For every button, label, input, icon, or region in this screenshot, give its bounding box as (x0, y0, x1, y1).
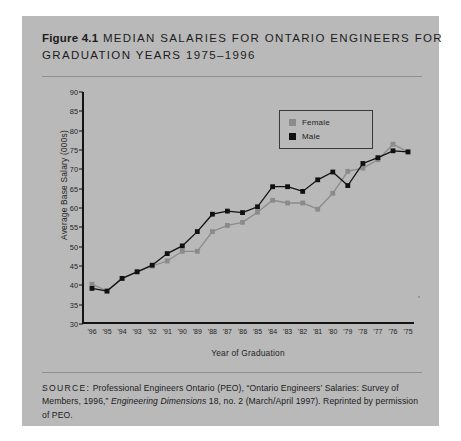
data-point-female (165, 259, 170, 264)
x-tick-label: '83 (283, 328, 292, 335)
legend-label-female: Female (302, 118, 330, 127)
y-tick-label: 85 (70, 107, 78, 116)
y-tick-label: 65 (70, 184, 78, 193)
x-tick-label: '78 (358, 328, 367, 335)
data-point-male (180, 244, 185, 249)
data-point-male (120, 276, 125, 281)
source-publication-title: Engineering Dimensions (111, 396, 206, 406)
data-point-female (300, 201, 305, 206)
source-label: SOURCE: (42, 383, 90, 393)
data-point-female (330, 191, 335, 196)
x-tick-label: '91 (163, 328, 172, 335)
legend-label-male: Male (302, 132, 320, 141)
x-axis-label: Year of Graduation (82, 348, 414, 358)
x-tick-label: '75 (403, 328, 412, 335)
y-tick-label: 75 (70, 146, 78, 155)
data-point-male (285, 184, 290, 189)
data-point-female (225, 223, 230, 228)
x-tick-label: '81 (313, 328, 322, 335)
x-tick-label: '89 (193, 328, 202, 335)
source-note: SOURCE: Professional Engineers Ontario (… (42, 382, 423, 422)
y-tick-label: 80 (70, 126, 78, 135)
data-point-female (195, 249, 200, 254)
figure-container: Figure 4.1 MEDIAN SALARIES FOR ONTARIO E… (22, 16, 439, 426)
x-tick-label: '93 (133, 328, 142, 335)
data-point-male (165, 251, 170, 256)
title-text-line-2: GRADUATION YEARS 1975–1996 (42, 47, 424, 64)
data-point-female (90, 282, 95, 287)
title-line-1: Figure 4.1 MEDIAN SALARIES FOR ONTARIO E… (42, 30, 424, 47)
x-tick-label: '80 (328, 328, 337, 335)
data-point-male (90, 286, 95, 291)
y-tick-label: 55 (70, 223, 78, 232)
legend-item-male: Male (289, 131, 320, 142)
chart-panel: Average Base Salary (000s) 3035404550556… (34, 84, 427, 364)
data-point-male (330, 170, 335, 175)
data-point-male (255, 204, 260, 209)
data-point-female (180, 249, 185, 254)
legend-item-female: Female (289, 117, 330, 128)
y-tick-label: 50 (70, 242, 78, 251)
x-tick-label: '79 (343, 328, 352, 335)
y-axis-label: Average Base Salary (000s) (59, 115, 69, 255)
data-point-male (210, 212, 215, 217)
print-speck (418, 296, 420, 298)
y-tick-label: 60 (70, 204, 78, 213)
data-point-male (240, 210, 245, 215)
data-point-female (315, 207, 320, 212)
data-point-female (255, 210, 260, 215)
y-tick-label: 30 (70, 320, 78, 329)
x-tick-label: '87 (223, 328, 232, 335)
data-point-male (406, 150, 411, 155)
title-divider (42, 76, 422, 77)
data-point-male (225, 209, 230, 214)
data-point-male (135, 269, 140, 274)
data-point-male (270, 184, 275, 189)
data-point-male (105, 289, 110, 294)
data-point-male (391, 148, 396, 153)
data-point-female (285, 201, 290, 206)
data-point-female (210, 229, 215, 234)
data-point-male (195, 229, 200, 234)
x-tick-label: '77 (373, 328, 382, 335)
x-tick-label: '84 (268, 328, 277, 335)
x-tick-label: '82 (298, 328, 307, 335)
data-point-female (345, 169, 350, 174)
x-tick-label: '88 (208, 328, 217, 335)
x-tick-label: '92 (148, 328, 157, 335)
data-point-male (361, 161, 366, 166)
data-point-male (315, 177, 320, 182)
data-point-female (270, 198, 275, 203)
x-tick-label: '96 (87, 328, 96, 335)
y-tick-label: 40 (70, 281, 78, 290)
data-point-male (150, 263, 155, 268)
y-tick-label: 45 (70, 262, 78, 271)
data-point-female (391, 142, 396, 147)
legend-swatch-male-icon (289, 133, 296, 140)
chart-legend: Female Male (279, 110, 373, 149)
y-tick-label: 70 (70, 165, 78, 174)
x-tick-label: '90 (178, 328, 187, 335)
figure-title: Figure 4.1 MEDIAN SALARIES FOR ONTARIO E… (42, 30, 424, 64)
legend-swatch-female-icon (289, 119, 296, 126)
x-tick-label: '86 (238, 328, 247, 335)
x-tick-label: '94 (118, 328, 127, 335)
title-text-line-1: MEDIAN SALARIES FOR ONTARIO ENGINEERS FO… (103, 32, 443, 44)
figure-number: Figure 4.1 (42, 32, 98, 44)
data-point-male (345, 183, 350, 188)
x-tick-label: '76 (388, 328, 397, 335)
data-point-male (300, 189, 305, 194)
data-point-female (240, 220, 245, 225)
y-tick-label: 90 (70, 88, 78, 97)
data-point-male (376, 155, 381, 160)
x-tick-label: '95 (102, 328, 111, 335)
y-tick-label: 35 (70, 300, 78, 309)
x-tick-label: '85 (253, 328, 262, 335)
source-divider (42, 372, 422, 373)
